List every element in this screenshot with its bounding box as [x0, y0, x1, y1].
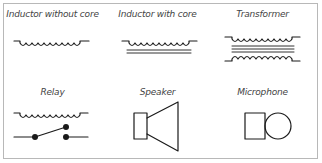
symbol-transformer: Transformer [210, 3, 315, 81]
relay-icon [0, 81, 105, 159]
inductor-icon [0, 3, 105, 81]
symbol-speaker: Speaker [105, 81, 210, 159]
transformer-icon [210, 3, 315, 81]
symbol-inductor-without-core: Inductor without core [0, 3, 105, 81]
symbol-relay: Relay [0, 81, 105, 159]
speaker-icon [105, 81, 210, 159]
inductor-core-icon [105, 3, 210, 81]
symbol-microphone: Microphone [210, 81, 315, 159]
symbol-inductor-with-core: Inductor with core [105, 3, 210, 81]
microphone-icon [210, 81, 315, 159]
